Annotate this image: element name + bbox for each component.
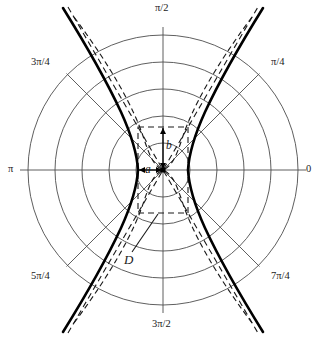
axis-label-three-half-pi: 3π/2 <box>152 318 171 329</box>
axis-label-seven-quarter-pi: 7π/4 <box>271 270 290 281</box>
axis-label-quarter-pi: π/4 <box>271 56 284 67</box>
polar-hyperbola-figure: 0 π/4 π/2 3π/4 π 5π/4 3π/2 7π/4 a b D <box>0 0 330 340</box>
label-semi-conjugate-b: b <box>166 139 172 151</box>
origin-point <box>160 167 165 172</box>
axis-label-pi: π <box>8 163 13 174</box>
axis-label-half-pi: π/2 <box>155 2 168 13</box>
curve-D-leader-line <box>132 214 158 252</box>
label-curve-D: D <box>124 252 133 268</box>
axis-label-0: 0 <box>306 163 311 174</box>
polar-plot-svg <box>0 0 330 340</box>
label-semi-transverse-a: a <box>145 163 151 175</box>
axis-label-five-quarter-pi: 5π/4 <box>31 270 50 281</box>
axis-label-three-quarter-pi: 3π/4 <box>31 56 50 67</box>
